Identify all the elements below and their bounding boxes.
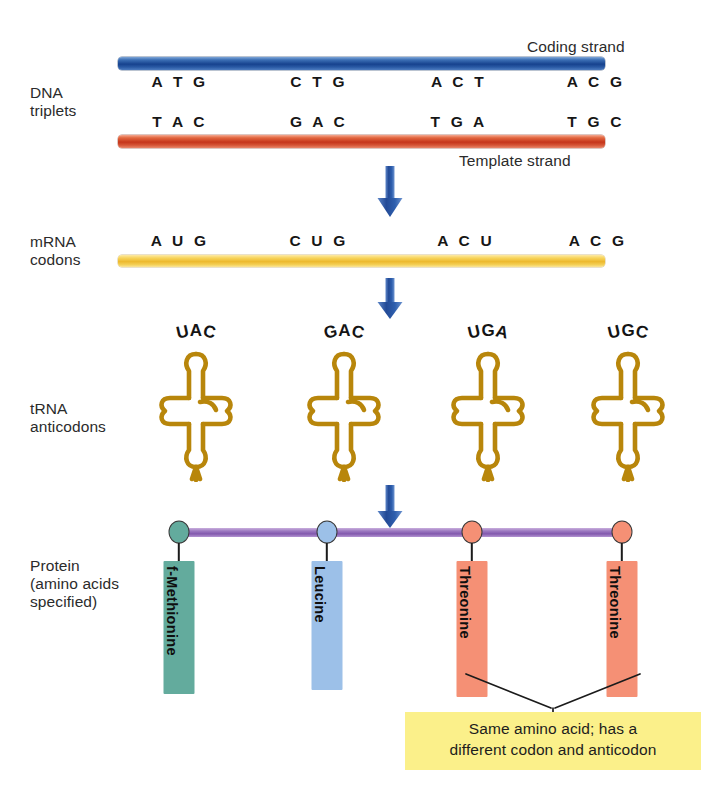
- amino-acid-label-4: Threonine: [607, 561, 623, 639]
- mrna-codon-2: C U G: [289, 232, 348, 250]
- amino-acid-node-4: [612, 521, 633, 544]
- mrna-codon-1: A U G: [151, 232, 209, 250]
- dna-template-strand-bar: [118, 135, 605, 148]
- dna-coding-triplet-3: A C T: [431, 73, 487, 91]
- translation-arrow-icon: [375, 278, 405, 320]
- dna-coding-strand-bar: [118, 57, 605, 70]
- amino-acid-label-1: f-Methionine: [164, 561, 180, 656]
- amino-acid-node-1: [169, 521, 190, 544]
- diagram-canvas: Coding strand DNA triplets A T G C T G A…: [0, 0, 709, 794]
- dna-template-triplet-1: T A C: [152, 113, 207, 131]
- row-label-dna: DNA triplets: [30, 84, 76, 120]
- dna-coding-triplet-4: A C G: [567, 73, 625, 91]
- amino-acid-label-2: Leucine: [312, 561, 328, 623]
- trna-molecule-3: [440, 340, 536, 482]
- amino-acid-node-3: [462, 521, 483, 544]
- amino-acid-bar-1: f-Methionine: [164, 561, 195, 694]
- dna-coding-triplet-1: A T G: [152, 73, 209, 91]
- callout-line-1: Same amino acid; has a: [415, 718, 691, 739]
- protein-arrow-icon: [375, 485, 405, 529]
- template-strand-label: Template strand: [459, 152, 571, 170]
- trna-molecule-2: [296, 340, 392, 482]
- row-label-protein: Protein (amino acids specified): [30, 557, 119, 611]
- callout-line-2: different codon and anticodon: [415, 739, 691, 760]
- mrna-strand-bar: [118, 255, 605, 267]
- mrna-codon-4: A C G: [569, 232, 627, 250]
- transcription-arrow-icon: [375, 166, 405, 218]
- dna-template-triplet-2: G A C: [290, 113, 348, 131]
- mrna-codon-3: A C U: [437, 232, 495, 250]
- amino-acid-bar-2: Leucine: [312, 561, 343, 690]
- callout-leader-lines: [455, 668, 655, 714]
- callout-box: Same amino acid; has a different codon a…: [405, 712, 701, 770]
- row-label-mrna: mRNA codons: [30, 233, 81, 269]
- dna-coding-triplet-2: C T G: [290, 73, 347, 91]
- coding-strand-label: Coding strand: [527, 38, 625, 56]
- row-label-trna: tRNA anticodons: [30, 400, 106, 436]
- trna-molecule-1: [148, 340, 244, 482]
- protein-backbone: [179, 528, 623, 537]
- dna-template-triplet-4: T G C: [567, 113, 624, 131]
- amino-acid-label-3: Threonine: [457, 561, 473, 639]
- trna-molecule-4: [580, 340, 676, 482]
- dna-template-triplet-3: T G A: [431, 113, 488, 131]
- amino-acid-node-2: [317, 521, 338, 544]
